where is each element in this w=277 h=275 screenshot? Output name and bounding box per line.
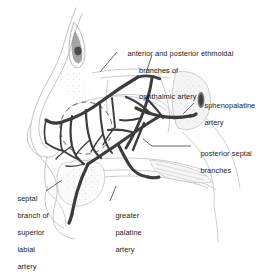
label-septal-branch-line4: labial <box>17 245 35 254</box>
label-sphenopalatine-line2: artery <box>204 118 223 127</box>
label-ethmoidal-line1: anterior and posterior ethmoidal <box>127 49 233 58</box>
label-septal-branch-line2: branch of <box>17 211 48 220</box>
pharyngeal-wall <box>214 206 218 242</box>
frontal-sinus-group <box>60 22 91 103</box>
label-ethmoidal-line2: branches of <box>139 67 233 76</box>
nose-tip-outline <box>27 124 59 157</box>
septal-twig-3 <box>91 134 103 152</box>
septal-twig-1 <box>56 146 72 159</box>
septal-anastomosis-4 <box>112 98 115 127</box>
label-posterior-septal-line2: branches <box>200 166 231 175</box>
label-greater-palatine-line1: greater <box>115 211 139 220</box>
alveolar-ridge <box>56 200 66 226</box>
label-septal-branch-line3: superior <box>17 228 44 237</box>
sinus-ostium <box>74 47 81 55</box>
leader-posterior-septal-2 <box>143 139 152 146</box>
posterior-ethmoidal-branch-b <box>120 118 141 120</box>
label-greater-palatine-line2: palatine <box>115 228 141 237</box>
label-posterior-septal-branches: posterior septal branches <box>192 141 252 184</box>
label-posterior-septal-line1: posterior septal <box>200 149 251 158</box>
label-greater-palatine-line3: artery <box>115 245 134 254</box>
label-sphenopalatine-line1: sphenopalatine <box>204 101 255 110</box>
septal-cross-branch-a <box>61 122 63 150</box>
label-greater-palatine-artery: greater palatine artery <box>107 203 142 263</box>
septal-twig-2 <box>76 140 90 155</box>
greater-palatine-terminal <box>148 177 159 178</box>
label-septal-branch-line5: artery <box>17 262 36 271</box>
leader-greater-palatine <box>110 186 116 201</box>
septal-cross-branch-c <box>45 120 47 143</box>
superior-labial-terminal <box>69 214 72 223</box>
label-septal-branch-superior-labial: septal branch of superior labial artery <box>9 186 49 275</box>
leader-ethmoidal-anterior <box>100 52 117 72</box>
label-septal-branch-line1: septal <box>17 194 37 203</box>
label-sphenopalatine-artery: sphenopalatine artery <box>196 93 255 136</box>
ethmoid-bone-stipple <box>60 62 91 103</box>
